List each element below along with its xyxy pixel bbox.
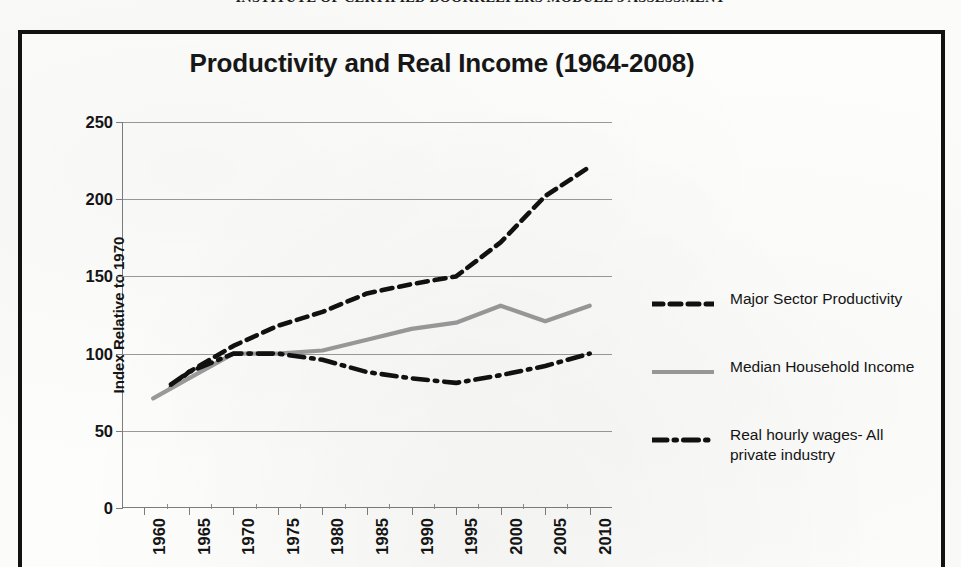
legend-swatch-icon [652,431,714,441]
figure-frame: Productivity and Real Income (1964-2008)… [18,30,945,567]
x-tick-label: 1995 [462,518,481,555]
legend-label: Real hourly wages- Allprivate industry [730,425,932,465]
y-tick-label: 0 [104,499,113,518]
x-tick-mark [233,507,234,515]
x-tick-mark [590,507,591,515]
x-tick-mark [322,507,323,515]
x-tick-label: 1970 [239,518,258,555]
legend-label: Major Sector Productivity [730,289,932,309]
y-tick-label: 200 [85,190,113,209]
chart-title: Productivity and Real Income (1964-2008) [22,48,862,79]
plot-area: Index Relative to 1970 050100150200250 1… [122,122,612,508]
y-tick-label: 100 [85,344,113,363]
legend-swatch-icon [652,295,714,305]
x-tick-label: 2000 [507,518,526,555]
x-tick-mark [545,507,546,515]
x-tick-label: 1985 [373,518,392,555]
x-tick-label: 2010 [596,518,615,555]
x-tick-mark [367,507,368,515]
y-tick-label: 150 [85,267,113,286]
legend-item[interactable]: Real hourly wages- Allprivate industry [652,425,932,465]
legend-item[interactable]: Median Household Income [652,357,932,381]
x-tick-label: 2005 [551,518,570,555]
y-tick-label: 250 [85,113,113,132]
x-tick-label: 1975 [284,518,303,555]
x-tick-label: 1965 [195,518,214,555]
y-tick-label: 50 [95,421,113,440]
x-tick-mark [412,507,413,515]
x-tick-label: 1990 [418,518,437,555]
x-tick-mark [189,507,190,515]
x-tick-mark [456,507,457,515]
x-tick-label: 1960 [150,518,169,555]
x-tick-mark [278,507,279,515]
chart-legend: Major Sector ProductivityMedian Househol… [652,289,932,509]
legend-item[interactable]: Major Sector Productivity [652,289,932,313]
series-layer [122,122,612,508]
x-tick-label: 1980 [328,518,347,555]
y-tick-mark [116,508,123,509]
series-line [171,354,590,385]
legend-label: Median Household Income [730,357,932,377]
x-tick-mark [144,507,145,515]
x-tick-mark [501,507,502,515]
legend-swatch-icon [652,363,714,373]
document-header-line: INSTITUTE OF CERTIFIED BOOKKEEPERS MODUL… [0,0,961,3]
